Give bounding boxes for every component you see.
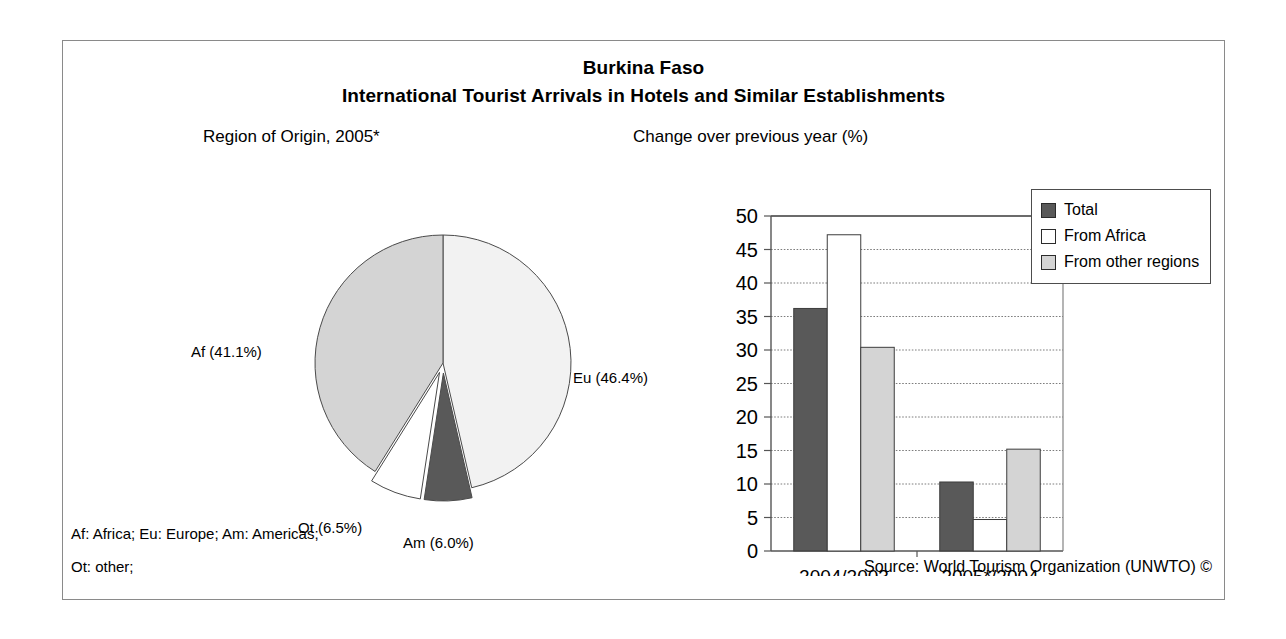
- legend-item-from-africa[interactable]: From Africa: [1041, 223, 1199, 249]
- bar-chart-bars: [794, 235, 1041, 551]
- y-tick-label-40: 40: [736, 272, 758, 294]
- legend-label-from-other-regions: From other regions: [1064, 253, 1199, 271]
- legend-swatch-total: [1041, 203, 1056, 218]
- bar-20042003-total[interactable]: [794, 308, 828, 551]
- y-tick-label-50: 50: [736, 205, 758, 227]
- legend-swatch-from-africa: [1041, 229, 1056, 244]
- pie-slice-label-africa: Af (41.1%): [191, 343, 262, 360]
- bar-chart-title: Change over previous year (%): [633, 127, 868, 147]
- y-tick-label-20: 20: [736, 406, 758, 428]
- source-credit: Source: World Tourism Organization (UNWT…: [864, 558, 1212, 576]
- bar-20052004-total[interactable]: [940, 482, 974, 551]
- page-subtitle: International Tourist Arrivals in Hotels…: [63, 85, 1224, 107]
- y-tick-label-35: 35: [736, 306, 758, 328]
- bar-20042003-from-africa[interactable]: [827, 235, 861, 551]
- pie-slice-label-europe: Eu (46.4%): [573, 369, 648, 386]
- pie-slice-eu[interactable]: [443, 235, 571, 488]
- bar-chart-y-tick-labels: 05101520253035404550: [736, 205, 758, 562]
- legend-label-total: Total: [1064, 201, 1098, 219]
- legend-item-total[interactable]: Total: [1041, 197, 1199, 223]
- pie-chart: Af (41.1%) Eu (46.4%) Ot (6.5%) Am (6.0%…: [183, 156, 623, 536]
- figure-frame: Burkina Faso International Tourist Arriv…: [62, 40, 1225, 600]
- bar-20042003-from-other-regions[interactable]: [861, 347, 895, 551]
- page-title: Burkina Faso: [63, 57, 1224, 79]
- legend-label-from-africa: From Africa: [1064, 227, 1146, 245]
- y-tick-label-25: 25: [736, 373, 758, 395]
- bar-20052004-from-africa[interactable]: [973, 520, 1007, 551]
- y-tick-label-15: 15: [736, 440, 758, 462]
- bar-chart-legend: Total From Africa From other regions: [1031, 189, 1211, 284]
- pie-slices: [315, 235, 571, 501]
- y-tick-label-10: 10: [736, 473, 758, 495]
- footnote-abbreviations-line-1: Af: Africa; Eu: Europe; Am: Americas;: [71, 525, 319, 542]
- footnote-abbreviations-line-2: Ot: other;: [71, 558, 134, 575]
- legend-swatch-from-other-regions: [1041, 255, 1056, 270]
- figure-page: Burkina Faso International Tourist Arriv…: [0, 0, 1286, 639]
- bar-20052004-from-other-regions[interactable]: [1007, 449, 1041, 551]
- legend-item-from-other-regions[interactable]: From other regions: [1041, 249, 1199, 275]
- y-tick-label-5: 5: [747, 507, 758, 529]
- y-tick-label-0: 0: [747, 540, 758, 562]
- pie-slice-label-americas: Am (6.0%): [403, 534, 474, 551]
- pie-chart-title: Region of Origin, 2005*: [203, 127, 380, 147]
- y-tick-label-45: 45: [736, 239, 758, 261]
- y-tick-label-30: 30: [736, 339, 758, 361]
